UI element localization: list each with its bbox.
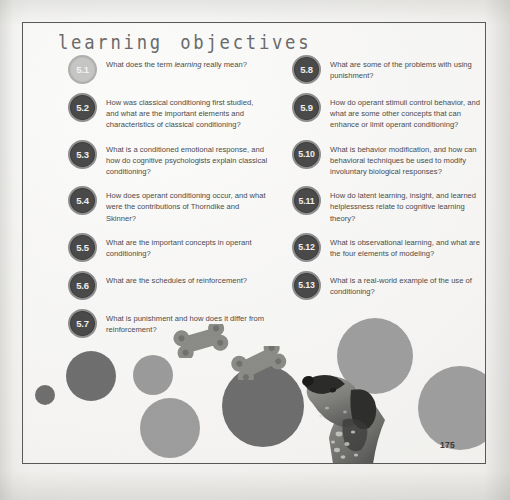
objective-text: How was classical conditioning first stu… xyxy=(106,93,268,131)
objective-number: 5.10 xyxy=(298,149,314,159)
objective-badge-5-1: 5.1 xyxy=(68,55,97,84)
objective-badge-5-9: 5.9 xyxy=(292,93,321,122)
objective-badge-5-12: 5.12 xyxy=(292,233,321,262)
learning-objective-5-9: 5.9 How do operant stimuli control behav… xyxy=(292,93,490,131)
objective-text-emphasis: learning xyxy=(174,60,201,69)
learning-objective-5-6: 5.6 What are the schedules of reinforcem… xyxy=(68,271,268,300)
objective-text: How do latent learning, insight, and lea… xyxy=(330,186,490,224)
learning-objective-5-3: 5.3 What is a conditioned emotional resp… xyxy=(68,140,268,178)
objective-number: 5.9 xyxy=(300,102,313,113)
objective-text-part-2: really mean? xyxy=(201,60,247,69)
objective-badge-5-8: 5.8 xyxy=(292,55,321,84)
objective-number: 5.3 xyxy=(76,149,89,160)
dog-photo xyxy=(299,360,419,463)
dog-biscuit-right-icon xyxy=(231,346,287,380)
objective-number: 5.1 xyxy=(76,64,89,75)
objective-text: What is behavior modification, and how c… xyxy=(330,140,490,178)
objective-number: 5.12 xyxy=(298,242,314,252)
objective-number: 5.8 xyxy=(300,64,313,75)
objective-badge-5-5: 5.5 xyxy=(68,233,97,262)
objective-text: What are the important concepts in opera… xyxy=(106,233,268,259)
objective-text: How does operant conditioning occur, and… xyxy=(106,186,268,224)
objectives-column-right: 5.8 What are some of the problems with u… xyxy=(292,55,490,309)
objective-badge-5-13: 5.13 xyxy=(292,271,321,300)
textbook-page-scan: learning objectives 5.1 What does the te… xyxy=(0,0,510,500)
page-number: 175 xyxy=(440,440,455,450)
circle-medium-dark xyxy=(66,351,116,401)
objectives-column-left: 5.1 What does the term learning really m… xyxy=(68,55,268,347)
learning-objective-5-11: 5.11 How do latent learning, insight, an… xyxy=(292,186,490,224)
learning-objective-5-13: 5.13 What is a real-world example of the… xyxy=(292,271,490,300)
objective-badge-5-2: 5.2 xyxy=(68,93,97,122)
illustration-collage xyxy=(23,318,485,463)
objective-number: 5.6 xyxy=(76,280,89,291)
learning-objective-5-2: 5.2 How was classical conditioning first… xyxy=(68,93,268,131)
learning-objective-5-12: 5.12 What is observational learning, and… xyxy=(292,233,490,262)
objective-text: What are the schedules of reinforcement? xyxy=(106,271,247,286)
objective-text: What are some of the problems with using… xyxy=(330,55,490,81)
objective-text: How do operant stimuli control behavior,… xyxy=(330,93,490,131)
objective-badge-5-11: 5.11 xyxy=(292,186,321,215)
objective-text-part-1: What does the term xyxy=(106,60,174,69)
objective-badge-5-10: 5.10 xyxy=(292,140,321,169)
objective-badge-5-3: 5.3 xyxy=(68,140,97,169)
circle-small-dark xyxy=(35,385,55,405)
objective-number: 5.13 xyxy=(298,280,314,290)
learning-objective-5-1: 5.1 What does the term learning really m… xyxy=(68,55,268,84)
objective-badge-5-6: 5.6 xyxy=(68,271,97,300)
circle-right-light xyxy=(418,366,485,450)
objective-number: 5.5 xyxy=(76,242,89,253)
objective-text: What is a conditioned emotional response… xyxy=(106,140,268,178)
objective-text: What does the term learning really mean? xyxy=(106,55,247,70)
page-title: learning objectives xyxy=(58,29,311,55)
learning-objective-5-10: 5.10 What is behavior modification, and … xyxy=(292,140,490,178)
circle-medium-light xyxy=(133,355,173,395)
circle-large-light xyxy=(140,398,200,458)
objective-text: What is observational learning, and what… xyxy=(330,233,490,259)
objective-number: 5.11 xyxy=(299,196,315,206)
learning-objective-5-5: 5.5 What are the important concepts in o… xyxy=(68,233,268,262)
objective-number: 5.4 xyxy=(76,195,89,206)
objective-badge-5-4: 5.4 xyxy=(68,186,97,215)
learning-objective-5-4: 5.4 How does operant conditioning occur,… xyxy=(68,186,268,224)
objective-number: 5.2 xyxy=(76,102,89,113)
objective-text: What is a real-world example of the use … xyxy=(330,271,490,297)
dog-biscuit-left-icon xyxy=(173,324,229,358)
learning-objective-5-8: 5.8 What are some of the problems with u… xyxy=(292,55,490,84)
